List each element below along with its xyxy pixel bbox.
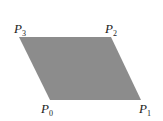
- parallelogram-diagram: P3 P2 P0 P1: [0, 0, 163, 121]
- vertex-label-p3: P3: [13, 21, 26, 38]
- vertex-label-p0: P0: [40, 101, 53, 118]
- parallelogram-shape: [19, 37, 141, 100]
- vertex-label-p2: P2: [104, 21, 117, 38]
- vertex-label-p1: P1: [138, 101, 151, 118]
